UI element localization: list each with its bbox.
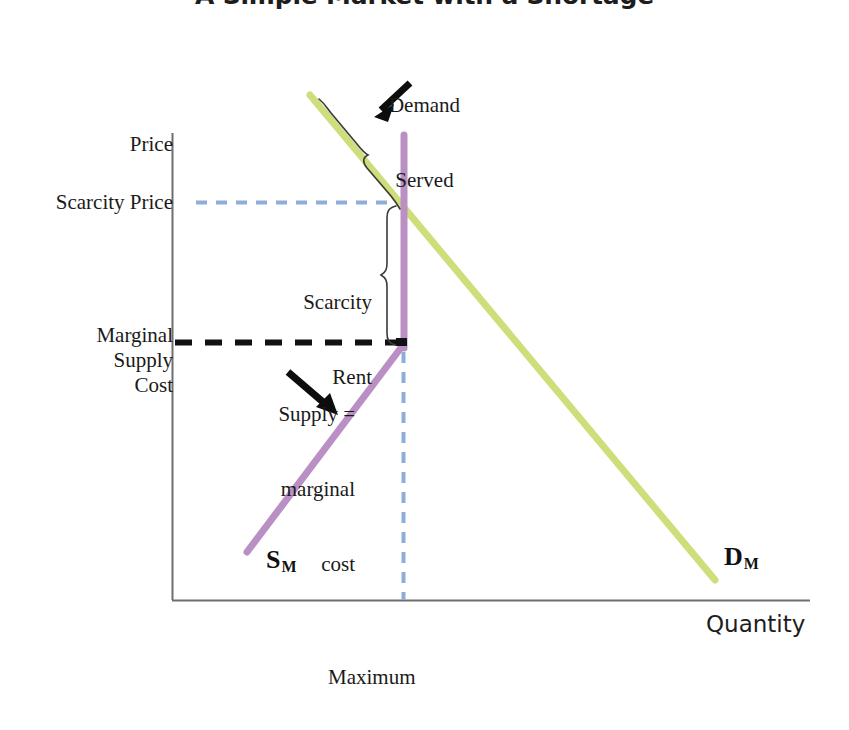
demand-curve-label-letter: D <box>724 542 743 571</box>
annotation-demand-served: Demand Served <box>0 43 849 243</box>
supply-curve-label-subscript: M <box>281 558 296 575</box>
demand-served-line2: Served <box>0 168 849 193</box>
chart-root: A Simple Market with a Shortage <box>0 0 849 730</box>
supply-marginal-cost-line2: marginal <box>0 477 355 502</box>
kink-point-marker <box>396 338 407 346</box>
x-axis-label-quantity: Quantity <box>706 612 805 637</box>
annotation-supply-marginal-cost: Supply = marginal cost <box>0 352 355 627</box>
demand-curve-label: DM <box>724 542 758 572</box>
supply-marginal-cost-line1: Supply = <box>0 402 355 427</box>
x-tick-label-maximum-supply: Maximum Supply = Demand Served <box>328 615 463 730</box>
supply-curve-label: SM <box>266 545 296 575</box>
supply-marginal-cost-line3: cost <box>0 552 355 577</box>
demand-curve-label-subscript: M <box>744 555 759 572</box>
demand-served-line1: Demand <box>0 93 849 118</box>
maximum-supply-line1: Maximum <box>328 665 463 690</box>
scarcity-rent-line1: Scarcity <box>0 290 372 315</box>
supply-curve-label-letter: S <box>266 545 280 574</box>
